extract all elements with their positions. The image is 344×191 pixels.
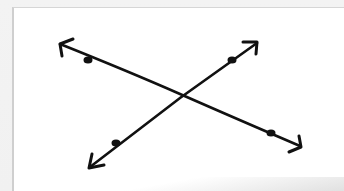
line-drawing xyxy=(0,0,344,191)
point-ascending-1 xyxy=(112,139,121,146)
point-descending-1 xyxy=(84,56,93,63)
point-descending-2 xyxy=(267,129,276,136)
point-ascending-2 xyxy=(228,56,237,63)
line-descending xyxy=(60,44,300,146)
diagram-scene: Two straight lines with arrowheads on bo… xyxy=(0,0,344,191)
